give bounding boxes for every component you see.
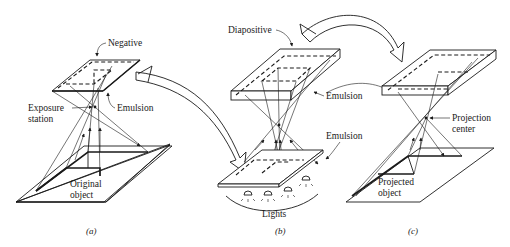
label-emulsion-b-top: Emulsion [326, 91, 363, 101]
label-diapositive: Diapositive [228, 25, 272, 35]
panel-c: Projection center Projected object (c) [346, 50, 496, 236]
label-emulsion-b-bottom: Emulsion [326, 131, 363, 141]
label-exposure-station-2: station [28, 114, 54, 124]
transfer-arrow-a-to-b [136, 66, 246, 172]
label-projected-object-1: Projected [378, 177, 414, 187]
label-negative: Negative [108, 38, 142, 48]
photogrammetry-diagram: Negative Emulsion Exposure station Origi… [0, 0, 510, 247]
label-projection-center-1: Projection [452, 113, 491, 123]
panel-b: Diapositive Emulsion Emulsion Lights (b) [218, 25, 363, 236]
label-projected-object-2: object [378, 188, 402, 198]
label-original-object-2: object [70, 190, 94, 200]
projection-center-point [425, 117, 428, 120]
label-lights: Lights [262, 209, 287, 219]
label-emulsion-a: Emulsion [117, 103, 154, 113]
caption-a: (a) [86, 226, 97, 236]
label-projection-center-2: center [452, 124, 476, 134]
exposure-station-point [94, 106, 97, 109]
caption-b: (b) [275, 226, 286, 236]
label-exposure-station-1: Exposure [28, 103, 64, 113]
light-bulb-icon [261, 191, 275, 202]
projection-point-b [278, 124, 281, 127]
caption-c: (c) [408, 226, 418, 236]
light-bulb-icon [241, 191, 255, 202]
diagram-canvas: Negative Emulsion Exposure station Origi… [0, 0, 510, 247]
light-bulb-icon [299, 176, 313, 187]
projected-object [352, 156, 462, 196]
light-bulb-icon [281, 187, 295, 198]
label-original-object-1: Original [70, 179, 102, 189]
negative-plate [52, 60, 140, 91]
